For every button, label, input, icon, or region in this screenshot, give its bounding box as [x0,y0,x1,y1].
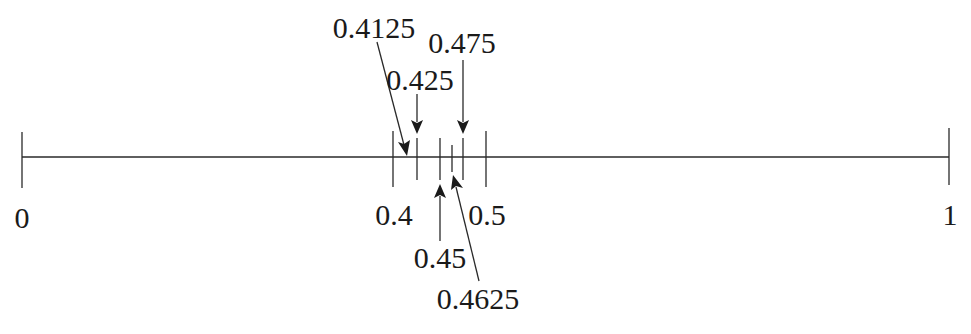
tick-marks [22,128,949,188]
label-0.4625: 0.4625 [437,282,520,315]
label-0.4: 0.4 [375,198,413,231]
label-0.425: 0.425 [386,63,454,96]
arrow-0.425: 0.425 [386,63,454,134]
label-0.475: 0.475 [428,26,496,59]
label-0.4125: 0.4125 [333,11,416,44]
arrowhead-icon [451,175,463,190]
label-one: 1 [943,198,958,231]
arrowhead-icon [457,120,469,134]
label-0.5: 0.5 [468,198,506,231]
label-0.45: 0.45 [414,241,467,274]
arrowhead-icon [398,140,410,156]
arrowhead-icon [434,184,446,198]
label-zero: 0 [15,201,30,234]
arrowhead-icon [411,120,423,134]
number-line-diagram: 0 1 0.4 0.5 0.4125 0.425 0.475 0.45 0.46… [0,0,971,334]
